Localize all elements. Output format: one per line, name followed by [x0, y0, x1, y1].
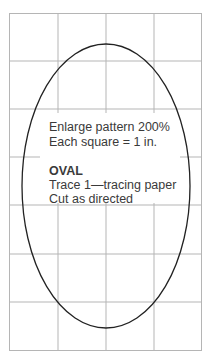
piece-cut: Cut as directed: [49, 192, 133, 206]
piece-trace: Trace 1—tracing paper: [49, 178, 176, 192]
instruction-enlarge: Enlarge pattern 200%: [49, 120, 170, 134]
instruction-scale: Each square = 1 in.: [49, 135, 157, 149]
piece-name: OVAL: [49, 164, 83, 178]
